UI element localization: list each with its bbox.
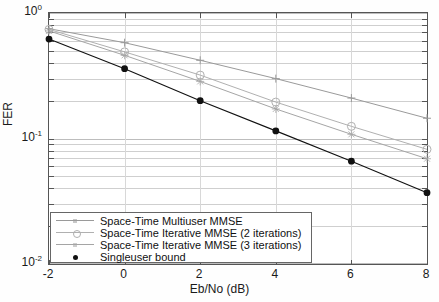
data-point-marker xyxy=(272,75,280,83)
legend-label: Space-Time Multiuser MMSE xyxy=(96,215,243,227)
data-point-marker xyxy=(196,77,204,85)
legend-box[interactable]: Space-Time Multiuser MMSESpace-Time Iter… xyxy=(50,212,312,263)
data-point-marker xyxy=(46,36,53,43)
legend-item[interactable]: Singleuser bound xyxy=(54,251,308,263)
figure-canvas: FER Eb/No (dB) 10010-110-2 -202468 Space… xyxy=(0,0,439,302)
x-axis-tick xyxy=(427,260,428,265)
series-line xyxy=(49,29,427,149)
data-point-marker xyxy=(423,114,431,122)
x-axis-tick-top xyxy=(427,13,428,18)
legend-item[interactable]: Space-Time Iterative MMSE (3 iterations) xyxy=(54,239,308,251)
legend-symbol xyxy=(54,215,96,227)
x-tick-label: 2 xyxy=(179,267,219,281)
y-axis-title: FER xyxy=(1,102,15,126)
legend-marker-icon xyxy=(73,230,81,238)
legend-marker-icon xyxy=(73,219,77,223)
legend-item[interactable]: Space-Time Multiuser MMSE xyxy=(54,215,308,227)
data-point-marker xyxy=(196,56,204,64)
legend-symbol xyxy=(54,227,96,239)
y-tick-label: 10-1 xyxy=(2,130,42,144)
legend-marker-icon xyxy=(73,255,78,260)
data-point-marker xyxy=(121,51,129,59)
data-point-marker xyxy=(348,158,355,165)
legend-marker-icon xyxy=(73,243,77,247)
series-line xyxy=(49,29,427,119)
data-point-marker xyxy=(424,189,431,196)
x-tick-label: 8 xyxy=(406,267,439,281)
series-line xyxy=(49,39,427,193)
x-tick-label: 6 xyxy=(330,267,370,281)
legend-item[interactable]: Space-Time Iterative MMSE (2 iterations) xyxy=(54,227,308,239)
legend-label: Space-Time Iterative MMSE (3 iterations) xyxy=(96,239,301,251)
x-axis-title: Eb/No (dB) xyxy=(0,282,439,296)
data-point-marker xyxy=(272,127,279,134)
y-axis-tick xyxy=(49,264,54,265)
y-tick-label: 100 xyxy=(2,4,42,18)
x-tick-label: -2 xyxy=(28,267,68,281)
legend-symbol xyxy=(54,251,96,263)
legend-symbol xyxy=(54,239,96,251)
legend-label: Singleuser bound xyxy=(96,251,186,263)
data-point-marker xyxy=(347,130,355,138)
data-point-marker xyxy=(121,65,128,72)
x-tick-label: 0 xyxy=(104,267,144,281)
data-point-marker xyxy=(197,97,204,104)
data-point-marker xyxy=(121,39,129,47)
y-axis-tick-right xyxy=(422,264,427,265)
x-tick-label: 4 xyxy=(255,267,295,281)
data-point-marker xyxy=(347,94,355,102)
data-point-marker xyxy=(423,155,431,163)
data-point-marker xyxy=(272,105,280,113)
data-point-marker xyxy=(45,27,53,35)
legend-label: Space-Time Iterative MMSE (2 iterations) xyxy=(96,227,301,239)
series-line xyxy=(49,31,427,159)
